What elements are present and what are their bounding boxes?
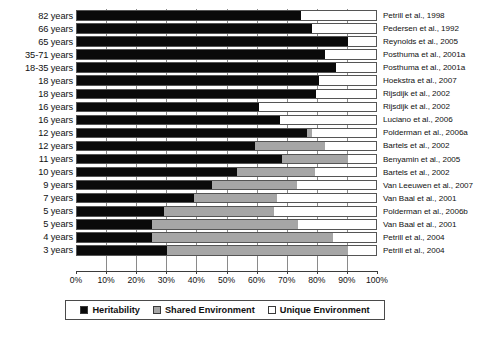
stacked-bar xyxy=(76,23,377,34)
bar-segment-unique-environment xyxy=(298,220,377,229)
x-axis-tick-label: 40% xyxy=(188,275,205,285)
source-citation-label: Posthuma et al., 2001a xyxy=(377,50,465,59)
bar-segment-unique-environment xyxy=(333,233,377,242)
source-citation-label: Petrill et al., 1998 xyxy=(377,11,445,20)
category-label: 3 years xyxy=(0,245,76,255)
white-square-swatch xyxy=(268,306,276,314)
stacked-bar xyxy=(76,245,377,256)
x-axis-tick-label: 90% xyxy=(338,275,355,285)
bar-segment-heritability xyxy=(77,220,152,229)
x-axis-tick xyxy=(317,271,318,274)
bar-segment-heritability xyxy=(77,24,312,33)
stacked-bar xyxy=(76,232,377,243)
stacked-bar xyxy=(76,62,377,73)
source-citation-label: Bartels et al., 2002 xyxy=(377,168,450,177)
source-citation-label: Reynolds et al., 2005 xyxy=(377,37,458,46)
x-axis-tick-label: 10% xyxy=(97,275,114,285)
chart-plot-area: 82 yearsPetrill et al., 199866 yearsPede… xyxy=(0,9,495,271)
category-label: 10 years xyxy=(0,167,76,177)
chart-row: 3 yearsPetrill et al., 2004 xyxy=(0,244,495,257)
legend-item: Unique Environment xyxy=(268,305,370,315)
stacked-bar xyxy=(76,206,377,217)
chart-row: 18 yearsHoekstra et al., 2007 xyxy=(0,74,495,87)
chart-row: 66 yearsPedersen et al., 1992 xyxy=(0,22,495,35)
category-label: 82 years xyxy=(0,11,76,21)
bar-segment-shared-environment xyxy=(212,181,296,190)
x-axis-tick-label: 50% xyxy=(218,275,235,285)
category-label: 65 years xyxy=(0,37,76,47)
stacked-bar xyxy=(76,128,377,139)
bar-segment-heritability xyxy=(77,50,325,59)
x-axis-tick xyxy=(76,271,77,274)
bar-segment-shared-environment xyxy=(164,207,274,216)
source-citation-label: Rijsdijk et al., 2002 xyxy=(377,89,450,98)
bar-segment-shared-environment xyxy=(152,233,333,242)
bar-segment-heritability xyxy=(77,155,282,164)
bar-segment-unique-environment xyxy=(312,129,377,138)
chart-row: 82 yearsPetrill et al., 1998 xyxy=(0,9,495,22)
chart-row: 16 yearsLuciano et al., 2006 xyxy=(0,113,495,126)
category-label: 9 years xyxy=(0,180,76,190)
chart-row: 5 yearsVan Baal et al., 2001 xyxy=(0,218,495,231)
bar-segment-shared-environment xyxy=(237,168,315,177)
bar-segment-heritability xyxy=(77,194,194,203)
bar-segment-unique-environment xyxy=(325,50,377,59)
stacked-bar xyxy=(76,75,377,86)
chart-row: 11 yearsBenyamin et al., 2005 xyxy=(0,153,495,166)
bar-segment-heritability xyxy=(77,116,280,125)
bar-segment-heritability xyxy=(77,63,336,72)
bar-segment-heritability xyxy=(77,207,164,216)
chart-row: 12 yearsPolderman et al., 2006a xyxy=(0,126,495,139)
source-citation-label: Benyamin et al., 2005 xyxy=(377,155,460,164)
category-label: 16 years xyxy=(0,102,76,112)
category-label: 12 years xyxy=(0,141,76,151)
bar-segment-unique-environment xyxy=(312,24,377,33)
bar-rows: 82 yearsPetrill et al., 199866 yearsPede… xyxy=(0,9,495,257)
legend-item: Shared Environment xyxy=(153,305,255,315)
bar-segment-unique-environment xyxy=(319,76,377,85)
bar-segment-heritability xyxy=(77,168,237,177)
chart-row: 65 yearsReynolds et al., 2005 xyxy=(0,35,495,48)
stacked-bar xyxy=(76,219,377,230)
x-axis-tick xyxy=(287,271,288,274)
bar-segment-unique-environment xyxy=(315,168,377,177)
chart-row: 7 yearsVan Baal et al., 2001 xyxy=(0,192,495,205)
stacked-bar xyxy=(76,180,377,191)
x-axis-tick-label: 0% xyxy=(70,275,82,285)
stacked-bar xyxy=(76,141,377,152)
bar-segment-shared-environment xyxy=(152,220,298,229)
stacked-bar xyxy=(76,36,377,47)
bar-segment-unique-environment xyxy=(348,37,377,46)
x-axis-tick xyxy=(257,271,258,274)
bar-segment-unique-environment xyxy=(316,90,377,99)
source-citation-label: Van Baal et al., 2001 xyxy=(377,194,457,203)
source-citation-label: Petrill et al., 2004 xyxy=(377,246,445,255)
category-label: 7 years xyxy=(0,193,76,203)
stacked-bar xyxy=(76,102,377,113)
bar-segment-shared-environment xyxy=(194,194,277,203)
bar-segment-shared-environment xyxy=(255,142,326,151)
category-label: 18 years xyxy=(0,89,76,99)
bar-segment-unique-environment xyxy=(301,11,377,20)
bar-segment-unique-environment xyxy=(277,194,377,203)
x-axis-tick xyxy=(227,271,228,274)
x-axis-tick xyxy=(196,271,197,274)
bar-segment-heritability xyxy=(77,11,301,20)
source-citation-label: Luciano et al., 2006 xyxy=(377,115,453,124)
x-axis-tick-label: 30% xyxy=(158,275,175,285)
category-label: 18-35 years xyxy=(0,63,76,73)
black-square-swatch xyxy=(80,306,88,314)
bar-segment-unique-environment xyxy=(259,103,377,112)
x-axis-tick xyxy=(166,271,167,274)
category-label: 12 years xyxy=(0,128,76,138)
source-citation-label: Rijsdijk et al., 2002 xyxy=(377,102,450,111)
legend-item-label: Shared Environment xyxy=(165,305,255,315)
bar-segment-unique-environment xyxy=(348,246,377,255)
chart-row: 12 yearsBartels et al., 2002 xyxy=(0,139,495,152)
stacked-bar xyxy=(76,115,377,126)
source-citation-label: Van Baal et al., 2001 xyxy=(377,220,457,229)
bar-segment-heritability xyxy=(77,103,259,112)
category-label: 11 years xyxy=(0,154,76,164)
source-citation-label: Polderman et al., 2006b xyxy=(377,207,468,216)
figure-canvas: 82 yearsPetrill et al., 199866 yearsPede… xyxy=(0,0,495,340)
